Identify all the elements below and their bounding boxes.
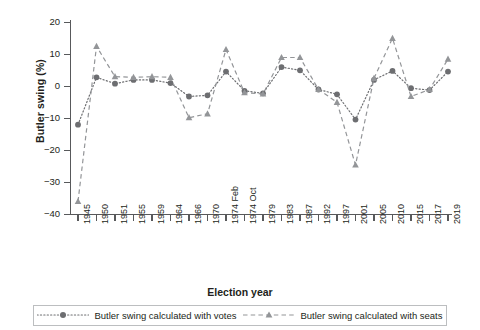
data-point-circle <box>334 91 340 97</box>
data-point-circle <box>168 80 174 86</box>
x-tick <box>170 215 171 221</box>
data-point-circle <box>75 122 81 128</box>
data-point-triangle <box>112 73 119 79</box>
data-point-triangle <box>426 86 433 92</box>
data-point-circle <box>408 85 414 91</box>
data-point-circle <box>297 67 303 73</box>
y-tick-label: 20 <box>8 16 60 27</box>
x-tick-label: 1974 Oct <box>248 187 258 224</box>
data-point-triangle <box>204 110 211 116</box>
x-tick-label: 1997 <box>341 204 351 224</box>
legend-label: Butler swing calculated with seats <box>300 310 442 321</box>
x-axis-title: Election year <box>0 286 480 298</box>
y-tick-label: 10 <box>8 48 60 59</box>
series-seats <box>75 35 452 204</box>
x-tick <box>410 215 411 221</box>
x-tick <box>281 215 282 221</box>
data-point-triangle <box>223 46 230 52</box>
x-tick <box>318 215 319 221</box>
data-point-triangle <box>241 89 248 95</box>
x-tick <box>133 215 134 221</box>
data-point-circle <box>371 77 377 83</box>
data-point-triangle <box>297 54 304 60</box>
data-point-circle <box>260 90 266 96</box>
data-point-circle <box>242 88 248 94</box>
data-point-circle <box>427 87 433 93</box>
data-point-triangle <box>130 74 137 80</box>
x-tick-label: 1992 <box>322 204 332 224</box>
x-tick <box>392 215 393 221</box>
x-tick <box>373 215 374 221</box>
x-tick-label: 2019 <box>452 204 462 224</box>
data-point-circle <box>131 77 137 83</box>
data-point-circle <box>353 117 359 123</box>
x-tick-label: 2005 <box>378 204 388 224</box>
data-point-circle <box>316 87 322 93</box>
data-point-triangle <box>334 99 341 105</box>
data-point-triangle <box>389 35 396 41</box>
data-point-triangle <box>186 114 193 120</box>
x-tick-label: 1979 <box>267 204 277 224</box>
data-point-triangle <box>371 75 378 81</box>
data-point-circle <box>186 94 192 100</box>
x-tick <box>355 215 356 221</box>
x-tick <box>336 215 337 221</box>
x-tick-label: 1964 <box>174 204 184 224</box>
y-tick <box>64 22 71 23</box>
data-point-triangle <box>445 56 452 62</box>
y-tick-label: −40 <box>8 208 60 219</box>
data-point-circle <box>205 92 211 98</box>
y-tick-label: −30 <box>8 176 60 187</box>
data-point-triangle <box>278 54 285 60</box>
x-tick-label: 1966 <box>193 204 203 224</box>
x-tick-label: 1974 Feb <box>230 186 240 224</box>
y-tick-label: 0 <box>8 80 60 91</box>
y-tick <box>64 54 71 55</box>
x-tick-label: 1950 <box>100 204 110 224</box>
x-tick-label: 2015 <box>415 204 425 224</box>
y-tick-label: −10 <box>8 112 60 123</box>
x-tick-label: 1987 <box>304 204 314 224</box>
data-point-circle <box>112 81 118 87</box>
data-point-triangle <box>408 93 415 99</box>
x-tick <box>188 215 189 221</box>
y-tick <box>64 118 71 119</box>
x-tick <box>262 215 263 221</box>
x-tick-label: 1970 <box>211 204 221 224</box>
y-tick-label: −20 <box>8 144 60 155</box>
data-point-triangle <box>315 86 322 92</box>
series-line <box>78 67 448 125</box>
x-tick <box>299 215 300 221</box>
series-votes <box>75 64 451 127</box>
x-tick-label: 1951 <box>119 204 129 224</box>
legend-triangle-icon <box>243 307 295 325</box>
data-point-circle <box>94 74 100 80</box>
chart-legend: Butler swing calculated with votesButler… <box>33 305 447 326</box>
x-tick <box>114 215 115 221</box>
x-tick <box>207 215 208 221</box>
data-point-triangle <box>93 43 100 49</box>
y-tick <box>64 86 71 87</box>
x-tick-label: 1955 <box>137 204 147 224</box>
x-tick-label: 1959 <box>156 204 166 224</box>
legend-label: Butler swing calculated with votes <box>94 310 236 321</box>
data-point-circle <box>149 77 155 83</box>
legend-entry-seats[interactable]: Butler swing calculated with seats <box>243 307 442 325</box>
data-point-circle <box>445 69 451 75</box>
legend-entry-votes[interactable]: Butler swing calculated with votes <box>37 307 236 325</box>
y-tick <box>64 214 71 215</box>
data-point-circle <box>390 68 396 74</box>
data-point-triangle <box>352 161 359 167</box>
data-point-triangle <box>75 198 82 204</box>
x-tick <box>151 215 152 221</box>
y-axis-title: Butler swing (%) <box>34 21 46 181</box>
legend-circle-icon <box>37 307 89 325</box>
x-tick <box>447 215 448 221</box>
x-tick-label: 2010 <box>396 204 406 224</box>
chart-series-layer <box>0 0 480 330</box>
y-tick <box>64 182 71 183</box>
data-point-triangle <box>260 90 267 96</box>
x-tick-label: 2001 <box>359 204 369 224</box>
x-tick <box>77 215 78 221</box>
series-line <box>78 38 448 201</box>
